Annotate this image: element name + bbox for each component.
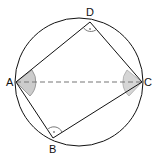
angle-b-arc: [47, 127, 62, 132]
label-d: D: [86, 6, 94, 18]
angle-d-dot: [89, 28, 91, 30]
cyclic-quadrilateral-figure: A B C D: [0, 0, 155, 163]
angle-b-dot: [53, 131, 55, 133]
label-c: C: [144, 76, 152, 88]
label-b: B: [49, 143, 56, 155]
label-a: A: [6, 76, 14, 88]
diagram: A B C D: [0, 0, 155, 163]
